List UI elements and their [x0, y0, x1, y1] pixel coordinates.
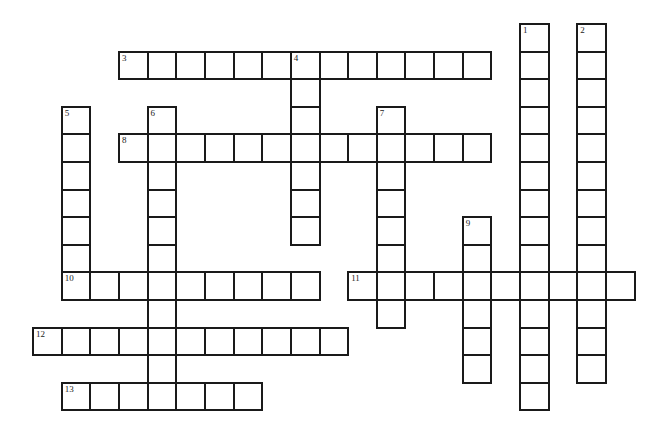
crossword-cell[interactable]: 12 — [32, 327, 63, 357]
crossword-cell[interactable] — [376, 161, 407, 191]
crossword-cell[interactable] — [519, 382, 550, 412]
crossword-cell[interactable] — [147, 299, 178, 329]
crossword-cell[interactable] — [118, 271, 149, 301]
crossword-cell[interactable] — [61, 327, 92, 357]
crossword-cell[interactable] — [519, 354, 550, 384]
crossword-cell[interactable] — [204, 51, 235, 81]
crossword-cell[interactable] — [519, 51, 550, 81]
crossword-cell[interactable] — [462, 51, 493, 81]
crossword-cell[interactable] — [261, 327, 292, 357]
crossword-cell[interactable]: 9 — [462, 216, 493, 246]
crossword-cell[interactable] — [89, 327, 120, 357]
crossword-cell[interactable] — [576, 133, 607, 163]
crossword-cell[interactable] — [147, 382, 178, 412]
crossword-cell[interactable] — [519, 106, 550, 136]
crossword-cell[interactable] — [175, 327, 206, 357]
crossword-cell[interactable] — [233, 382, 264, 412]
crossword-cell[interactable] — [261, 51, 292, 81]
crossword-cell[interactable] — [576, 78, 607, 108]
crossword-cell[interactable] — [347, 133, 378, 163]
crossword-cell[interactable] — [404, 51, 435, 81]
crossword-cell[interactable] — [519, 133, 550, 163]
crossword-cell[interactable] — [175, 51, 206, 81]
crossword-cell[interactable] — [576, 51, 607, 81]
crossword-cell[interactable] — [576, 161, 607, 191]
crossword-cell[interactable] — [147, 327, 178, 357]
crossword-cell[interactable]: 11 — [347, 271, 378, 301]
crossword-cell[interactable] — [519, 216, 550, 246]
crossword-cell[interactable] — [61, 161, 92, 191]
crossword-cell[interactable] — [519, 189, 550, 219]
crossword-cell[interactable] — [175, 382, 206, 412]
crossword-cell[interactable] — [204, 382, 235, 412]
crossword-cell[interactable] — [290, 133, 321, 163]
crossword-cell[interactable] — [462, 299, 493, 329]
crossword-cell[interactable] — [233, 271, 264, 301]
crossword-cell[interactable] — [404, 271, 435, 301]
crossword-cell[interactable] — [147, 133, 178, 163]
crossword-cell[interactable] — [290, 106, 321, 136]
crossword-cell[interactable] — [61, 244, 92, 274]
crossword-cell[interactable] — [118, 382, 149, 412]
crossword-cell[interactable] — [576, 327, 607, 357]
crossword-cell[interactable] — [519, 327, 550, 357]
crossword-cell[interactable] — [376, 299, 407, 329]
crossword-cell[interactable] — [519, 161, 550, 191]
crossword-cell[interactable] — [61, 216, 92, 246]
crossword-cell[interactable] — [605, 271, 636, 301]
crossword-cell[interactable] — [462, 271, 493, 301]
crossword-cell[interactable] — [376, 216, 407, 246]
crossword-cell[interactable] — [462, 327, 493, 357]
crossword-cell[interactable] — [290, 216, 321, 246]
crossword-cell[interactable] — [376, 271, 407, 301]
crossword-cell[interactable] — [61, 133, 92, 163]
crossword-cell[interactable] — [519, 244, 550, 274]
crossword-cell[interactable] — [204, 133, 235, 163]
crossword-cell[interactable] — [147, 244, 178, 274]
crossword-cell[interactable] — [147, 161, 178, 191]
crossword-cell[interactable] — [89, 382, 120, 412]
crossword-cell[interactable] — [576, 271, 607, 301]
crossword-cell[interactable] — [548, 271, 579, 301]
crossword-cell[interactable] — [290, 78, 321, 108]
crossword-cell[interactable] — [233, 133, 264, 163]
crossword-cell[interactable] — [576, 189, 607, 219]
crossword-cell[interactable]: 3 — [118, 51, 149, 81]
crossword-cell[interactable] — [576, 216, 607, 246]
crossword-cell[interactable] — [118, 327, 149, 357]
crossword-cell[interactable] — [261, 271, 292, 301]
crossword-cell[interactable] — [576, 244, 607, 274]
crossword-cell[interactable]: 1 — [519, 23, 550, 53]
crossword-cell[interactable] — [319, 327, 350, 357]
crossword-cell[interactable] — [404, 133, 435, 163]
crossword-cell[interactable] — [519, 78, 550, 108]
crossword-cell[interactable] — [462, 133, 493, 163]
crossword-cell[interactable]: 4 — [290, 51, 321, 81]
crossword-cell[interactable] — [576, 299, 607, 329]
crossword-cell[interactable] — [347, 51, 378, 81]
crossword-cell[interactable] — [175, 133, 206, 163]
crossword-cell[interactable] — [376, 189, 407, 219]
crossword-cell[interactable] — [175, 271, 206, 301]
crossword-cell[interactable] — [290, 161, 321, 191]
crossword-cell[interactable] — [462, 354, 493, 384]
crossword-cell[interactable] — [147, 216, 178, 246]
crossword-cell[interactable] — [290, 327, 321, 357]
crossword-cell[interactable]: 5 — [61, 106, 92, 136]
crossword-cell[interactable]: 2 — [576, 23, 607, 53]
crossword-cell[interactable]: 8 — [118, 133, 149, 163]
crossword-cell[interactable] — [376, 244, 407, 274]
crossword-cell[interactable] — [290, 189, 321, 219]
crossword-cell[interactable] — [462, 244, 493, 274]
crossword-cell[interactable] — [261, 133, 292, 163]
crossword-cell[interactable] — [147, 354, 178, 384]
crossword-cell[interactable] — [233, 51, 264, 81]
crossword-cell[interactable] — [319, 51, 350, 81]
crossword-cell[interactable] — [433, 133, 464, 163]
crossword-cell[interactable] — [433, 51, 464, 81]
crossword-cell[interactable] — [576, 106, 607, 136]
crossword-cell[interactable] — [433, 271, 464, 301]
crossword-cell[interactable] — [376, 51, 407, 81]
crossword-cell[interactable]: 10 — [61, 271, 92, 301]
crossword-cell[interactable]: 7 — [376, 106, 407, 136]
